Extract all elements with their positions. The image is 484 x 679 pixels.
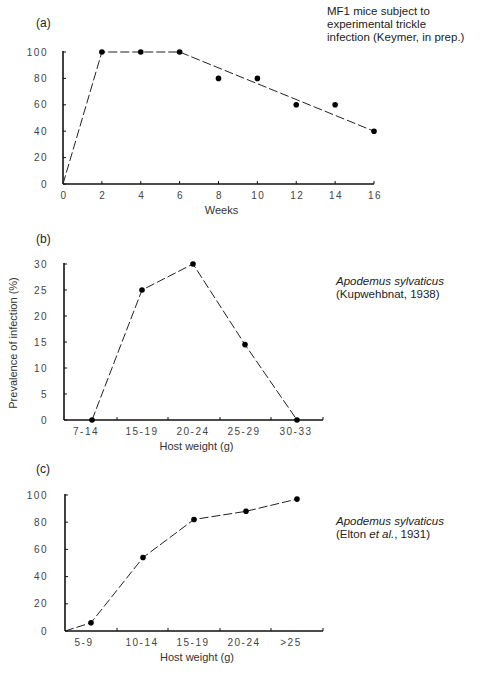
x-tick-label: 6 (177, 190, 184, 201)
x-category-label: 15-19 (125, 426, 158, 437)
y-tick-label: 0 (41, 626, 48, 637)
data-point (255, 76, 261, 82)
x-category-label: 10-14 (125, 637, 158, 648)
data-point (371, 128, 377, 134)
chart-panel-b: 0510152025307-1415-1920-2425-2930-33Host… (34, 259, 323, 453)
data-point (88, 620, 94, 626)
y-tick-label: 0 (41, 179, 48, 190)
y-tick-label: 40 (34, 571, 48, 582)
data-point (243, 509, 249, 515)
x-axis-title: Weeks (205, 204, 239, 216)
x-tick-label: 16 (368, 190, 382, 201)
y-tick-label: 100 (27, 47, 48, 58)
y-tick-label: 25 (34, 285, 48, 296)
data-point (216, 76, 222, 82)
y-tick-label: 40 (34, 126, 48, 137)
y-tick-label: 80 (34, 73, 48, 84)
y-tick-label: 30 (34, 259, 48, 270)
plots-canvas: 0204060801000246810121416Weeks 051015202… (0, 0, 484, 679)
x-axis-title: Host weight (g) (160, 651, 234, 663)
figure: (a) (b) (c) MF1 mice subject to experime… (0, 0, 484, 679)
y-tick-label: 100 (27, 490, 48, 501)
y-axis-title: Prevalence of infection (%) (7, 277, 19, 408)
x-category-label: 20-24 (176, 426, 209, 437)
x-tick-label: 4 (138, 190, 145, 201)
data-point (332, 102, 338, 108)
chart-panel-c: 0204060801005-910-1415-1920-24>25Host we… (27, 490, 323, 664)
x-tick-label: 10 (251, 190, 265, 201)
y-tick-label: 60 (34, 99, 48, 110)
x-category-label: 25-29 (227, 426, 260, 437)
x-tick-label: 0 (60, 190, 67, 201)
x-tick-label: 12 (290, 190, 304, 201)
y-tick-label: 20 (34, 598, 48, 609)
y-tick-label: 20 (34, 152, 48, 163)
data-point (191, 517, 197, 523)
y-tick-label: 20 (34, 311, 48, 322)
data-point (99, 49, 105, 55)
trend-line (65, 499, 297, 631)
x-axis-title: Host weight (g) (160, 440, 234, 452)
data-point (138, 49, 144, 55)
data-point (294, 496, 300, 502)
data-point (140, 555, 146, 561)
trend-line (92, 264, 297, 420)
data-point (139, 287, 145, 293)
y-tick-label: 80 (34, 517, 48, 528)
x-category-label: 15-19 (176, 637, 209, 648)
data-point (177, 49, 183, 55)
x-category-label: 7-14 (73, 426, 99, 437)
x-tick-label: 2 (99, 190, 106, 201)
x-category-label: >25 (280, 637, 301, 648)
chart-panel-a: 0204060801000246810121416Weeks (27, 47, 382, 217)
data-point (242, 342, 248, 348)
x-tick-label: 14 (329, 190, 343, 201)
x-tick-label: 8 (216, 190, 223, 201)
y-tick-label: 60 (34, 544, 48, 555)
trend-line (63, 52, 374, 184)
y-tick-label: 10 (34, 363, 48, 374)
data-point (294, 417, 300, 423)
data-point (293, 102, 299, 108)
y-tick-label: 15 (34, 337, 48, 348)
y-tick-label: 5 (41, 389, 48, 400)
x-category-label: 5-9 (75, 637, 94, 648)
y-tick-label: 0 (41, 415, 48, 426)
data-point (190, 261, 196, 267)
x-category-label: 30-33 (279, 426, 312, 437)
x-category-label: 20-24 (227, 637, 260, 648)
data-point (89, 417, 95, 423)
